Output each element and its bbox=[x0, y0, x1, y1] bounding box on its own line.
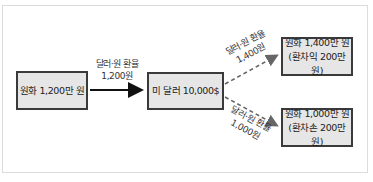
source-label: 원화 1,200만 원 bbox=[20, 84, 85, 98]
loss-line1: 원화 1,000만 원 bbox=[285, 107, 350, 121]
gain-line1: 원화 1,400만 원 bbox=[285, 36, 350, 50]
source-box-krw: 원화 1,200만 원 bbox=[16, 71, 88, 110]
edge-main-line2: 1,200원 bbox=[92, 70, 142, 82]
result-box-loss: 원화 1,000만 원 (환차손 200만 원) bbox=[281, 108, 353, 147]
middle-label: 미 달러 10,000$ bbox=[152, 84, 220, 98]
loss-line2: (환차손 200만 원) bbox=[283, 121, 351, 149]
middle-box-usd: 미 달러 10,000$ bbox=[147, 72, 224, 110]
gain-line2: (환차익 200만 원) bbox=[283, 50, 351, 78]
result-box-gain: 원화 1,400만 원 (환차익 200만 원) bbox=[281, 37, 353, 76]
edge-main-line1: 달러·원 환율 bbox=[92, 58, 142, 70]
edge-label-main: 달러·원 환율 1,200원 bbox=[92, 58, 142, 82]
